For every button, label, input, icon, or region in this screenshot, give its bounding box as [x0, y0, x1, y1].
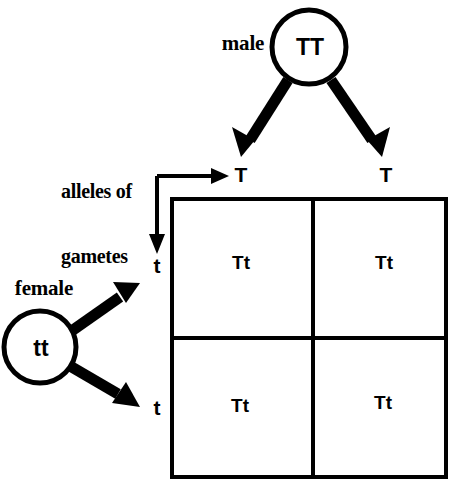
- punnett-cell-r2c1: Tt: [231, 396, 249, 417]
- punnett-square-diagram: male female TT tt alleles of gametes T T…: [0, 0, 453, 486]
- row-header-2: t: [154, 397, 161, 420]
- gametes-caption: alleles of gametes: [61, 138, 132, 311]
- punnett-cell-r1c1: Tt: [232, 253, 250, 274]
- female-genotype-text: tt: [33, 336, 48, 361]
- male-parent-label: male: [222, 32, 264, 55]
- gametes-caption-line-1: alleles of: [61, 181, 132, 203]
- punnett-cell-r1c2: Tt: [375, 253, 393, 274]
- female-gamete-arrow-lower: [70, 366, 140, 407]
- male-gamete-arrow-right: [331, 80, 390, 157]
- male-gamete-arrow-left: [232, 80, 288, 157]
- punnett-cell-r2c2: Tt: [374, 393, 392, 414]
- row-header-1: t: [154, 255, 161, 278]
- column-header-1: T: [235, 164, 248, 187]
- male-genotype-text: TT: [296, 35, 324, 60]
- column-header-2: T: [380, 164, 393, 187]
- gametes-caption-line-2: gametes: [61, 246, 132, 268]
